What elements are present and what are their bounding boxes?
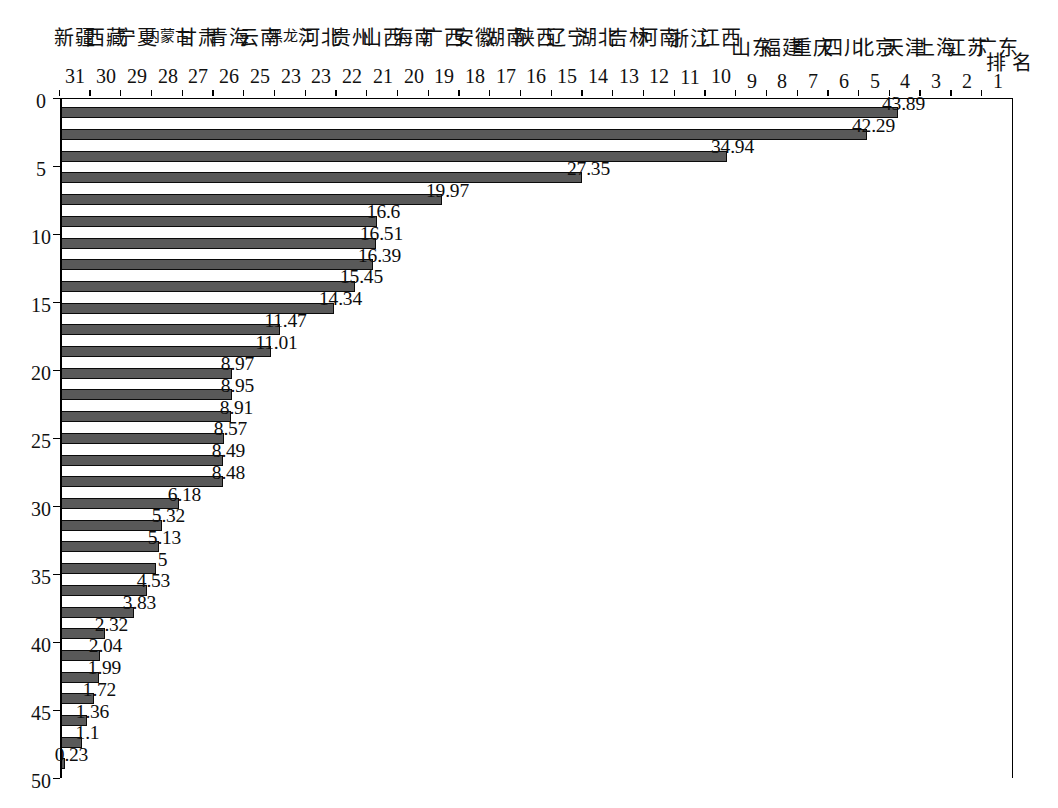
category-rank: 13 xyxy=(619,66,639,86)
category-rank: 16 xyxy=(527,66,547,86)
bar-slot: 5 xyxy=(61,558,1012,580)
bar-value-label: 16.39 xyxy=(358,245,401,265)
category-rank: 1 xyxy=(993,71,1003,91)
value-axis-tick-label: 10 xyxy=(31,226,51,249)
bar[interactable] xyxy=(61,172,582,183)
category-rank: 4 xyxy=(900,71,910,91)
bar[interactable] xyxy=(61,455,223,466)
value-axis-tick-label: 20 xyxy=(31,362,51,385)
bar-value-label: 1.72 xyxy=(83,679,116,699)
category-axis-tick xyxy=(766,90,767,96)
bar-value-label: 4.53 xyxy=(137,571,170,591)
bar-value-label: 27.35 xyxy=(567,158,610,178)
category-rank: 9 xyxy=(747,71,757,91)
bar-slot: 11.01 xyxy=(61,341,1012,363)
bar-value-label: 15.45 xyxy=(340,267,383,287)
category-axis-tick xyxy=(243,90,244,96)
category-rank: 7 xyxy=(808,71,818,91)
category-axis-tick xyxy=(428,90,429,96)
category-rank: 15 xyxy=(557,66,577,86)
chart-page: 排 名 1广东2江苏3上海4天津5北京6四川7重庆8福建9山东10江西11浙江1… xyxy=(0,0,1058,808)
category-rank: 29 xyxy=(127,66,147,86)
bar-slot: 8.57 xyxy=(61,428,1012,450)
category-rank: 19 xyxy=(434,66,454,86)
bar[interactable] xyxy=(61,411,231,422)
category-axis-tick xyxy=(489,90,490,96)
category-axis-tick xyxy=(797,90,798,96)
bar-value-label: 1.1 xyxy=(76,723,100,743)
category-rank: 8 xyxy=(777,71,787,91)
bar-value-label: 2.32 xyxy=(95,614,128,634)
bar-value-label: 2.04 xyxy=(89,636,122,656)
value-axis-tick-label: 45 xyxy=(31,702,51,725)
bar-value-label: 8.57 xyxy=(214,419,247,439)
category-axis-tick xyxy=(674,90,675,96)
category-axis-tick xyxy=(858,90,859,96)
bar[interactable] xyxy=(61,324,280,335)
value-axis-tick xyxy=(53,438,60,439)
category-rank: 11 xyxy=(681,66,700,86)
value-axis-tick-label: 5 xyxy=(36,158,46,181)
bar-value-label: 1.36 xyxy=(76,701,109,721)
bar[interactable] xyxy=(61,151,727,162)
bar-slot: 16.6 xyxy=(61,211,1012,233)
category-axis-tick xyxy=(643,90,644,96)
bar-value-label: 6.18 xyxy=(168,484,201,504)
category-rank: 25 xyxy=(250,66,270,86)
bar-slot: 5.32 xyxy=(61,514,1012,536)
bar-slot: 27.35 xyxy=(61,167,1012,189)
bar-slot: 8.91 xyxy=(61,406,1012,428)
value-axis-tick xyxy=(53,574,60,575)
value-axis-tick xyxy=(53,778,60,779)
bar-value-label: 11.01 xyxy=(256,332,298,352)
bar-slot: 15.45 xyxy=(61,276,1012,298)
category-axis-tick xyxy=(981,90,982,96)
category-axis-tick xyxy=(612,90,613,96)
value-axis-tick xyxy=(53,642,60,643)
category-axis-tick xyxy=(397,90,398,96)
bar-value-label: 8.49 xyxy=(212,441,245,461)
bar-value-label: 16.51 xyxy=(360,224,403,244)
value-axis-tick xyxy=(53,98,60,99)
bar-slot: 8.48 xyxy=(61,471,1012,493)
category-axis-tick xyxy=(520,90,521,96)
category-axis-tick xyxy=(212,90,213,96)
value-axis-tick xyxy=(53,370,60,371)
category-name: 新疆 xyxy=(54,28,96,48)
category-rank: 18 xyxy=(465,66,485,86)
bar-slot: 42.29 xyxy=(61,124,1012,146)
bar-slot: 16.51 xyxy=(61,232,1012,254)
bar-value-label: 11.47 xyxy=(265,310,307,330)
category-rank: 17 xyxy=(496,66,516,86)
bar[interactable] xyxy=(61,541,159,552)
bar[interactable] xyxy=(61,368,232,379)
value-axis-tick xyxy=(53,234,60,235)
bar[interactable] xyxy=(61,259,373,270)
category-axis-tick xyxy=(735,90,736,96)
bar[interactable] xyxy=(61,281,355,292)
category-rank: 6 xyxy=(839,71,849,91)
bar-value-label: 14.34 xyxy=(319,289,362,309)
bar-value-label: 5.32 xyxy=(152,506,185,526)
category-rank: 26 xyxy=(219,66,239,86)
category-rank: 28 xyxy=(158,66,178,86)
bar-slot: 0.23 xyxy=(61,753,1012,775)
category-rank: 12 xyxy=(649,66,669,86)
bar-value-label: 42.29 xyxy=(852,115,895,135)
category-axis-tick xyxy=(950,90,951,96)
bar-series: 43.8942.2934.9427.3519.9716.616.5116.391… xyxy=(61,99,1012,778)
category-axis-tick xyxy=(274,90,275,96)
bar[interactable] xyxy=(61,238,376,249)
bar-slot: 1.72 xyxy=(61,688,1012,710)
bar[interactable] xyxy=(61,216,377,227)
bar[interactable] xyxy=(61,433,224,444)
bar[interactable] xyxy=(61,107,898,118)
bar-slot: 2.04 xyxy=(61,645,1012,667)
category-axis-tick xyxy=(305,90,306,96)
value-axis-tick-label: 0 xyxy=(36,90,46,113)
value-axis-tick xyxy=(53,166,60,167)
value-axis-tick-label: 30 xyxy=(31,498,51,521)
bar[interactable] xyxy=(61,389,232,400)
bar-slot: 19.97 xyxy=(61,189,1012,211)
plot-area: 43.8942.2934.9427.3519.9716.616.5116.391… xyxy=(60,98,1013,778)
